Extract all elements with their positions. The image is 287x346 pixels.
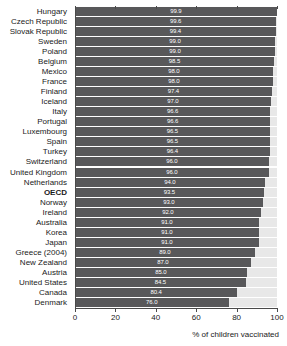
category-row: Finland <box>0 87 71 97</box>
category-label: Switzerland <box>26 157 67 166</box>
bar-track: 97.4 <box>75 87 277 96</box>
category-label: Denmark <box>35 298 67 307</box>
bar: 76.0 <box>75 298 229 307</box>
category-row: Austria <box>0 268 71 278</box>
category-label: Turkey <box>43 147 67 156</box>
bar-value-label: 92.0 <box>75 208 261 217</box>
bar-row: 76.0 <box>75 298 277 308</box>
bar-value-label: 76.0 <box>75 298 229 307</box>
bar-value-label: 99.0 <box>75 47 275 56</box>
bar-value-label: 91.0 <box>75 238 259 247</box>
category-label: United States <box>19 278 67 287</box>
bar-row: 96.5 <box>75 137 277 147</box>
bar: 99.4 <box>75 27 276 36</box>
x-axis-top-tick <box>277 6 278 9</box>
category-row: Ireland <box>0 207 71 217</box>
category-row: Iceland <box>0 97 71 107</box>
x-axis-top-tick <box>115 6 116 9</box>
bar: 91.0 <box>75 218 259 227</box>
category-row: United Kingdom <box>0 167 71 177</box>
bar-value-label: 97.0 <box>75 97 271 106</box>
x-axis-tick <box>277 308 278 312</box>
bar-value-label: 93.0 <box>75 198 263 207</box>
bar-track: 98.5 <box>75 57 277 66</box>
category-row: Greece (2004) <box>0 248 71 258</box>
bar-track: 96.4 <box>75 147 277 156</box>
bar-value-label: 91.0 <box>75 218 259 227</box>
category-row: Spain <box>0 137 71 147</box>
category-label: Greece (2004) <box>15 248 67 257</box>
bar-row: 91.0 <box>75 227 277 237</box>
bar: 94.0 <box>75 178 265 187</box>
category-label: New Zealand <box>20 258 67 267</box>
category-label: Netherlands <box>24 178 67 187</box>
bar-value-label: 93.5 <box>75 188 264 197</box>
category-row: Turkey <box>0 147 71 157</box>
category-label: Norway <box>40 198 67 207</box>
bar-row: 96.6 <box>75 117 277 127</box>
bar: 87.0 <box>75 258 251 267</box>
bar: 91.0 <box>75 228 259 237</box>
x-axis-tick-labels: 020406080100 <box>75 313 277 325</box>
bar: 97.0 <box>75 97 271 106</box>
bar-track: 93.5 <box>75 188 277 197</box>
bar-row: 91.0 <box>75 217 277 227</box>
category-label: Spain <box>47 137 67 146</box>
bar-row: 96.0 <box>75 167 277 177</box>
category-row: Korea <box>0 227 71 237</box>
category-row: Poland <box>0 46 71 56</box>
bar-row: 99.9 <box>75 6 277 16</box>
category-label: Iceland <box>41 97 67 106</box>
category-row: Switzerland <box>0 157 71 167</box>
category-label: Luxembourg <box>23 127 67 136</box>
bar-value-label: 99.0 <box>75 37 275 46</box>
bar-row: 98.5 <box>75 56 277 66</box>
bar-value-label: 96.6 <box>75 107 270 116</box>
bar-row: 80.4 <box>75 288 277 298</box>
bar-row: 97.0 <box>75 97 277 107</box>
bar-track: 89.0 <box>75 248 277 257</box>
bar-track: 99.6 <box>75 17 277 26</box>
category-row: Czech Republic <box>0 16 71 26</box>
vaccination-bar-chart: HungaryCzech RepublicSlovak RepublicSwed… <box>0 0 287 346</box>
x-axis-tick <box>196 308 197 312</box>
bar-row: 89.0 <box>75 248 277 258</box>
category-label: Austria <box>42 268 67 277</box>
bar-row: 84.5 <box>75 278 277 288</box>
bar: 96.0 <box>75 168 269 177</box>
bar-value-label: 99.9 <box>75 7 277 16</box>
bar-value-label: 99.4 <box>75 27 276 36</box>
bar-value-label: 97.4 <box>75 87 272 96</box>
x-axis-tick-label: 60 <box>192 313 201 323</box>
bar-value-label: 91.0 <box>75 228 259 237</box>
bar: 93.0 <box>75 198 263 207</box>
bar: 96.6 <box>75 107 270 116</box>
category-row: Italy <box>0 107 71 117</box>
bar-track: 84.5 <box>75 278 277 287</box>
category-row: Denmark <box>0 298 71 308</box>
bar: 89.0 <box>75 248 255 257</box>
bar: 99.0 <box>75 47 275 56</box>
bar-track: 97.0 <box>75 97 277 106</box>
category-label: Australia <box>36 218 67 227</box>
bar-value-label: 98.0 <box>75 67 273 76</box>
bar-value-label: 96.5 <box>75 127 270 136</box>
bar: 99.6 <box>75 17 276 26</box>
bar-row: 92.0 <box>75 207 277 217</box>
bar-value-label: 87.0 <box>75 258 251 267</box>
x-axis-tick <box>156 308 157 312</box>
bar-row: 96.0 <box>75 157 277 167</box>
category-axis-labels: HungaryCzech RepublicSlovak RepublicSwed… <box>0 6 71 308</box>
x-axis-tick-label: 100 <box>270 313 283 323</box>
bar-row: 91.0 <box>75 237 277 247</box>
x-axis-tick <box>115 308 116 312</box>
y-axis-line <box>75 6 76 308</box>
category-row: Belgium <box>0 56 71 66</box>
bar-value-label: 96.4 <box>75 147 270 156</box>
bar-track: 91.0 <box>75 228 277 237</box>
category-row: Slovak Republic <box>0 26 71 36</box>
bar-value-label: 85.0 <box>75 268 247 277</box>
bar: 96.4 <box>75 147 270 156</box>
bar-row: 99.0 <box>75 46 277 56</box>
bar: 98.5 <box>75 57 274 66</box>
